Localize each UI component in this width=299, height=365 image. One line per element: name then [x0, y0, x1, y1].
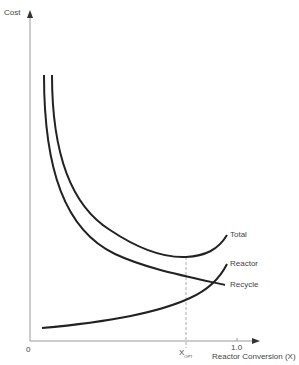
- reactor-curve: [42, 264, 227, 328]
- total-label: Total: [230, 230, 247, 239]
- total-curve: [52, 75, 227, 257]
- tick-one-label: 1.0: [231, 343, 242, 352]
- y-axis-arrow-icon: [27, 10, 33, 18]
- x-opt-label: XOPT: [179, 348, 193, 359]
- chart-plot: [0, 0, 299, 365]
- x-opt-sub: OPT: [184, 354, 192, 359]
- recycle-label: Recycle: [230, 280, 258, 289]
- recycle-curve: [44, 75, 225, 285]
- origin-label: 0: [26, 345, 30, 354]
- x-axis-label: Reactor Conversion (X): [212, 352, 296, 361]
- y-axis-label: Cost: [4, 8, 20, 17]
- reactor-label: Reactor: [230, 259, 258, 268]
- x-axis-arrow-icon: [252, 338, 260, 344]
